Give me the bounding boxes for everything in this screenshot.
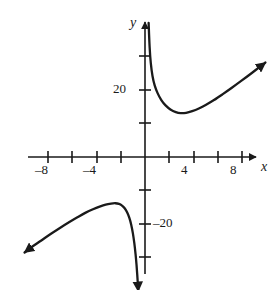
curve-upper-branch (149, 23, 266, 113)
y-axis-label: y (130, 16, 136, 30)
x-tick-label-8: 8 (230, 163, 237, 176)
x-tick-label-neg4: –4 (83, 163, 96, 176)
x-axis-label: x (261, 160, 267, 174)
coordinate-plane-svg (0, 0, 280, 290)
x-tick-label-neg8: –8 (35, 163, 48, 176)
x-tick-label-4: 4 (181, 163, 188, 176)
y-tick-label-neg20: –20 (153, 216, 173, 229)
graph-figure: –8 –4 4 8 20 –20 x y (0, 0, 280, 290)
y-tick-label-20: 20 (113, 82, 126, 95)
axis-lines (28, 22, 256, 274)
curve-lower-branch (25, 203, 139, 290)
